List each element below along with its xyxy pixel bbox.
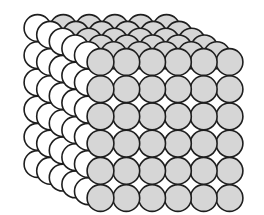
sphere <box>87 157 114 184</box>
sphere <box>87 76 114 103</box>
sphere <box>190 103 217 130</box>
sphere <box>139 157 166 184</box>
sphere <box>190 49 217 76</box>
sphere <box>190 76 217 103</box>
sphere-cube-diagram: Simple cubic packing of spheres <box>0 0 264 215</box>
sphere <box>165 103 192 130</box>
sphere <box>113 157 140 184</box>
sphere <box>165 157 192 184</box>
sphere <box>139 49 166 76</box>
sphere <box>113 103 140 130</box>
sphere <box>165 49 192 76</box>
sphere <box>139 130 166 157</box>
sphere <box>216 130 243 157</box>
sphere <box>216 103 243 130</box>
sphere <box>113 130 140 157</box>
sphere <box>139 103 166 130</box>
sphere <box>190 157 217 184</box>
sphere <box>139 76 166 103</box>
sphere <box>113 76 140 103</box>
sphere <box>216 76 243 103</box>
sphere <box>87 185 114 212</box>
sphere <box>113 49 140 76</box>
sphere <box>87 103 114 130</box>
sphere <box>87 49 114 76</box>
sphere <box>165 76 192 103</box>
sphere <box>190 130 217 157</box>
sphere <box>190 185 217 212</box>
sphere <box>216 49 243 76</box>
sphere-packing-svg <box>0 0 264 215</box>
sphere <box>165 185 192 212</box>
sphere <box>113 185 140 212</box>
sphere <box>87 130 114 157</box>
sphere <box>139 185 166 212</box>
sphere <box>216 157 243 184</box>
sphere <box>216 185 243 212</box>
sphere <box>165 130 192 157</box>
